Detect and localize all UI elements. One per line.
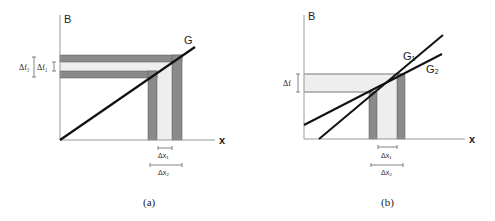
diagram-canvas: B x G Δf₂ Δf₁ Δx₁ Δx₂ (a) bbox=[0, 0, 495, 221]
dark-band-vertical-left bbox=[148, 71, 157, 140]
delta-x1-bracket bbox=[378, 145, 397, 149]
delta-f-label: Δf bbox=[283, 79, 291, 88]
caption-b: (b) bbox=[381, 196, 394, 209]
y-axis-label: B bbox=[308, 10, 315, 22]
light-band-vertical bbox=[377, 92, 397, 139]
panel-b: B x G₁ G₂ Δf Δx₁ Δx₂ (b) bbox=[283, 10, 476, 209]
dark-band-top bbox=[60, 55, 182, 62]
delta-f-bracket bbox=[296, 74, 300, 92]
delta-f1-bracket bbox=[52, 62, 56, 71]
delta-x1-label: Δx₁ bbox=[381, 152, 392, 159]
delta-x2-label: Δx₂ bbox=[381, 169, 392, 176]
panel-a: B x G Δf₂ Δf₁ Δx₁ Δx₂ (a) bbox=[19, 13, 226, 209]
x-axis-label: x bbox=[219, 134, 226, 146]
delta-f2-label: Δf₂ bbox=[19, 63, 30, 72]
dark-band-vertical-left bbox=[369, 92, 377, 139]
caption-a: (a) bbox=[143, 196, 156, 209]
delta-x2-bracket bbox=[371, 163, 403, 167]
line-g1-label: G₁ bbox=[403, 50, 416, 62]
dark-band-vertical-right bbox=[172, 55, 182, 140]
delta-f1-label: Δf₁ bbox=[37, 63, 48, 72]
delta-f2-bracket bbox=[32, 57, 36, 77]
delta-x2-label: Δx₂ bbox=[158, 169, 169, 176]
x-axis-label: x bbox=[469, 133, 476, 145]
line-g2-label: G₂ bbox=[426, 63, 439, 75]
light-band-vertical bbox=[157, 62, 172, 140]
y-axis-label: B bbox=[64, 13, 71, 25]
dark-band-lower bbox=[60, 71, 157, 78]
dark-band-vertical-right bbox=[397, 74, 405, 139]
delta-x2-bracket bbox=[150, 163, 182, 167]
light-band-horizontal bbox=[304, 74, 404, 92]
line-g-label: G bbox=[184, 34, 193, 46]
delta-x1-label: Δx₁ bbox=[158, 152, 169, 159]
delta-x1-bracket bbox=[158, 146, 172, 150]
